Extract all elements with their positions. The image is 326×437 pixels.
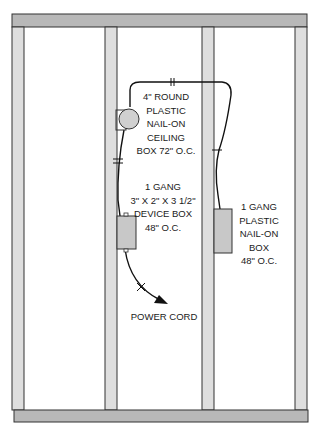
stud-1	[12, 27, 24, 410]
ceiling-box-label: 4" ROUND PLASTIC NAIL-ON CEILING BOX 72"…	[137, 90, 196, 158]
plastic-box-label: 1 GANG PLASTIC NAIL-ON BOX 48" O.C.	[239, 200, 279, 268]
top-plate	[12, 14, 307, 27]
stud-3	[202, 27, 214, 410]
power-cord-label: POWER CORD	[131, 310, 198, 324]
cable-left	[118, 130, 124, 216]
power-cord-arrow-icon	[154, 295, 168, 304]
power-cord	[125, 249, 160, 300]
plastic-box	[214, 209, 232, 253]
stud-4	[295, 27, 307, 410]
bottom-plate	[14, 410, 308, 422]
stud-2	[105, 27, 117, 410]
device-box-label: 1 GANG 3" X 2" X 3 1/2" DEVICE BOX 48" O…	[130, 180, 195, 234]
